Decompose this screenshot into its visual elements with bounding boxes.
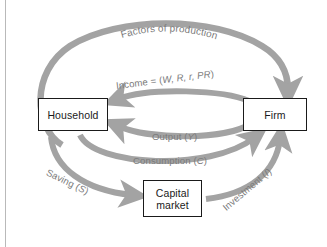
label-consumption: Consumption (C) bbox=[133, 155, 207, 166]
node-capital-market-label-line1: Capital bbox=[156, 187, 189, 199]
arrow-income bbox=[118, 91, 249, 101]
label-consumption-suffix: ) bbox=[204, 155, 207, 166]
node-capital-market-label: Capital market bbox=[156, 187, 189, 211]
node-firm[interactable]: Firm bbox=[243, 98, 307, 131]
circular-flow-diagram: Factors of production Household Firm Cap… bbox=[0, 0, 327, 247]
node-household-label: Household bbox=[47, 109, 98, 121]
node-household[interactable]: Household bbox=[38, 98, 108, 131]
label-consumption-prefix: Consumption ( bbox=[133, 155, 197, 166]
node-capital-market-label-line2: market bbox=[156, 199, 189, 211]
label-output: Output (Y) bbox=[152, 131, 197, 142]
node-firm-label: Firm bbox=[264, 109, 285, 121]
node-capital-market[interactable]: Capital market bbox=[143, 180, 202, 217]
label-consumption-vars: C bbox=[197, 155, 204, 166]
label-output-suffix: ) bbox=[194, 131, 197, 142]
label-output-prefix: Output ( bbox=[152, 131, 187, 142]
